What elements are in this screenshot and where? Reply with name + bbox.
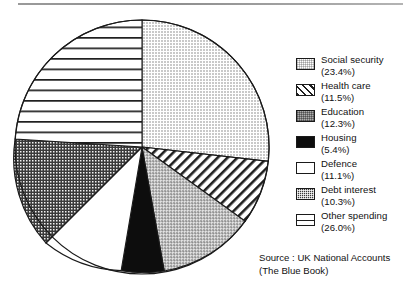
legend-value: (11.5%) xyxy=(321,92,413,104)
legend-text-social-security: Social security (23.4%) xyxy=(321,54,413,79)
header-divider xyxy=(18,3,403,5)
legend-item-other-spending[interactable]: Other spending (26.0%) xyxy=(296,212,413,238)
legend-value: (12.3%) xyxy=(321,118,413,130)
legend-value: (5.4%) xyxy=(321,144,413,156)
source-line-1: Source : UK National Accounts xyxy=(259,252,390,265)
pie-slice-other-spending xyxy=(15,20,142,147)
legend-label: Health care xyxy=(321,80,413,92)
legend-label: Education xyxy=(321,106,413,118)
legend-text-defence: Defence (11.1%) xyxy=(321,158,413,183)
legend-swatch-housing xyxy=(296,136,315,148)
legend-text-other-spending: Other spending (26.0%) xyxy=(321,210,413,235)
pie-chart-figure: Social security (23.4%) Health care (11.… xyxy=(0,0,413,292)
legend-label: Other spending xyxy=(321,210,413,222)
legend-text-health-care: Health care (11.5%) xyxy=(321,80,413,105)
pie-chart-svg xyxy=(11,16,273,278)
legend-text-housing: Housing (5.4%) xyxy=(321,132,413,157)
legend-label: Social security xyxy=(321,54,413,66)
legend-item-housing[interactable]: Housing (5.4%) xyxy=(296,134,413,160)
source-note: Source : UK National Accounts (The Blue … xyxy=(259,252,390,277)
legend-value: (10.3%) xyxy=(321,196,413,208)
legend-item-education[interactable]: Education (12.3%) xyxy=(296,108,413,134)
legend-label: Debt interest xyxy=(321,184,413,196)
legend-item-debt-interest[interactable]: Debt interest (10.3%) xyxy=(296,186,413,212)
legend-swatch-education xyxy=(296,110,315,122)
legend-swatch-other-spending xyxy=(296,214,315,226)
legend-swatch-social-security xyxy=(296,58,315,70)
legend-text-education: Education (12.3%) xyxy=(321,106,413,131)
chart-legend: Social security (23.4%) Health care (11.… xyxy=(296,56,413,238)
legend-value: (23.4%) xyxy=(321,66,413,78)
source-line-2: (The Blue Book) xyxy=(259,265,390,278)
legend-text-debt-interest: Debt interest (10.3%) xyxy=(321,184,413,209)
legend-swatch-debt-interest xyxy=(296,188,315,200)
legend-value: (11.1%) xyxy=(321,170,413,182)
legend-value: (26.0%) xyxy=(321,222,413,234)
legend-label: Defence xyxy=(321,158,413,170)
legend-swatch-defence xyxy=(296,162,315,174)
legend-item-health-care[interactable]: Health care (11.5%) xyxy=(296,82,413,108)
legend-label: Housing xyxy=(321,132,413,144)
legend-item-social-security[interactable]: Social security (23.4%) xyxy=(296,56,413,82)
legend-item-defence[interactable]: Defence (11.1%) xyxy=(296,160,413,186)
pie-slice-social-security xyxy=(142,20,269,161)
legend-swatch-health-care xyxy=(296,84,315,96)
